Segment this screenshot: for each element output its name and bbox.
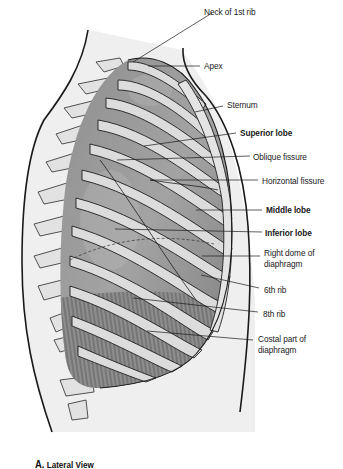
label-costal-part-of-diaphragm: Costal part of diaphragm (258, 334, 306, 355)
label-costal-line2: diaphragm (258, 345, 306, 356)
label-apex: Apex (204, 61, 223, 72)
label-neck-of-1st-rib: Neck of 1st rib (204, 7, 256, 18)
label-right-dome-line1: Right dome of (264, 248, 314, 259)
lateral-view-figure: Neck of 1st rib Apex Sternum Superior lo… (0, 0, 343, 469)
label-superior-lobe: Superior lobe (240, 128, 292, 139)
caption-letter: A. (35, 458, 44, 469)
label-sternum: Sternum (227, 100, 258, 111)
caption-text: Lateral View (47, 460, 94, 469)
label-costal-line1: Costal part of (258, 334, 306, 345)
label-middle-lobe: Middle lobe (266, 205, 311, 216)
label-8th-rib: 8th rib (263, 309, 285, 320)
label-right-dome-line2: diaphragm (264, 259, 314, 270)
figure-caption: A. Lateral View (35, 458, 94, 469)
label-horizontal-fissure: Horizontal fissure (262, 176, 324, 187)
label-6th-rib: 6th rib (264, 285, 286, 296)
label-inferior-lobe: Inferior lobe (265, 228, 312, 239)
label-right-dome-of-diaphragm: Right dome of diaphragm (264, 248, 314, 269)
label-oblique-fissure: Oblique fissure (253, 152, 307, 163)
